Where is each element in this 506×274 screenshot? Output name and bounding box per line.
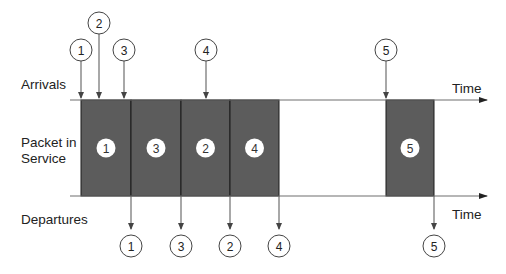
packet-in-service-label-line2: Service <box>21 151 66 166</box>
service-slot-packet-1: 1 <box>81 100 131 196</box>
departure-packet-id: 3 <box>178 240 185 254</box>
departure-markers: 13245 <box>120 196 445 257</box>
departure-packet-4: 4 <box>268 196 290 257</box>
arrival-packet-3: 3 <box>113 39 135 98</box>
departure-packet-id: 5 <box>431 240 438 254</box>
queue-timing-diagram: Arrivals Packet in Service Departures 13… <box>0 0 506 274</box>
arrival-markers: 12345 <box>70 12 397 98</box>
packet-in-service-label-line1: Packet in <box>21 135 77 150</box>
service-slot-packet-4: 4 <box>230 100 279 196</box>
departure-packet-5: 5 <box>423 196 445 257</box>
arrivals-label: Arrivals <box>21 77 66 92</box>
arrival-packet-4: 4 <box>195 39 217 98</box>
packet-id: 4 <box>251 142 258 156</box>
arrival-packet-id: 1 <box>78 44 85 58</box>
arrival-packet-1: 1 <box>70 39 92 98</box>
departure-packet-id: 2 <box>227 240 234 254</box>
packet-id: 1 <box>103 142 110 156</box>
service-boxes: 13245 <box>81 100 434 196</box>
departure-packet-3: 3 <box>170 196 192 257</box>
arrival-packet-id: 5 <box>383 44 390 58</box>
arrival-packet-id: 2 <box>96 17 103 31</box>
service-slot-packet-3: 3 <box>131 100 181 196</box>
arrival-packet-id: 3 <box>121 44 128 58</box>
time-axis-label-top: Time <box>452 81 482 96</box>
service-slot-packet-2: 2 <box>181 100 230 196</box>
time-axis-label-bottom: Time <box>452 207 482 222</box>
arrival-packet-id: 4 <box>203 44 210 58</box>
service-slot-packet-5: 5 <box>386 100 434 196</box>
departure-packet-id: 1 <box>128 240 135 254</box>
departure-packet-2: 2 <box>219 196 241 257</box>
arrival-packet-5: 5 <box>375 39 397 98</box>
departure-packet-id: 4 <box>276 240 283 254</box>
packet-id: 3 <box>153 142 160 156</box>
packet-id: 5 <box>407 142 414 156</box>
packet-id: 2 <box>202 142 209 156</box>
departures-label: Departures <box>21 212 88 227</box>
departure-packet-1: 1 <box>120 196 142 257</box>
